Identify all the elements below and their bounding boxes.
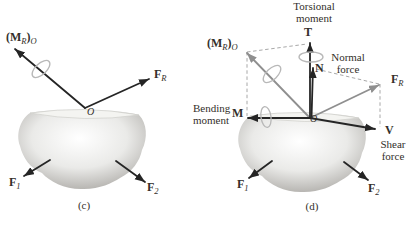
normal-force-label: Normal force (329, 52, 367, 75)
caption-d: (d) (298, 200, 326, 212)
force-2-label-c: F2 (147, 181, 159, 193)
torsional-moment-label: Torsional moment (284, 1, 344, 24)
panel-c-diagram (15, 49, 149, 189)
projection-dashed-mro-to-t (247, 44, 307, 52)
resultant-moment-arrow-d (247, 53, 310, 118)
resultant-moment-label-d: (MR)O (207, 37, 238, 49)
normal-vector-label: N (315, 62, 324, 74)
origin-label-c: O (87, 107, 94, 117)
bending-moment-label: Bending moment (193, 103, 230, 126)
resultant-force-label-d: FR (391, 73, 404, 85)
caption-c: (c) (70, 199, 98, 211)
origin-label-d: O (310, 114, 317, 124)
resultant-force-arrow-c (85, 79, 149, 108)
resultant-force-label-c: FR (154, 68, 167, 80)
bending-vector-label: M (232, 107, 243, 119)
rotation-curl-icon-mro-d (260, 62, 283, 85)
force-2-label-d: F2 (368, 182, 380, 194)
resultant-force-arrow-d (310, 85, 379, 118)
torsion-vector-label: T (304, 26, 312, 38)
shear-force-label: Shear force (377, 139, 409, 162)
shear-vector-label: V (385, 124, 394, 136)
normal-force-arrow (312, 68, 314, 118)
body-c (18, 109, 146, 189)
textbook-figure-internal-loadings: (MR)O FR F1 F2 O (c) Torsional moment T … (0, 0, 414, 227)
force-1-label-c: F1 (9, 176, 21, 188)
resultant-moment-label-c: (MR)O (6, 31, 37, 43)
resultant-moment-arrow-c (15, 49, 85, 108)
force-1-label-d: F1 (237, 178, 249, 190)
